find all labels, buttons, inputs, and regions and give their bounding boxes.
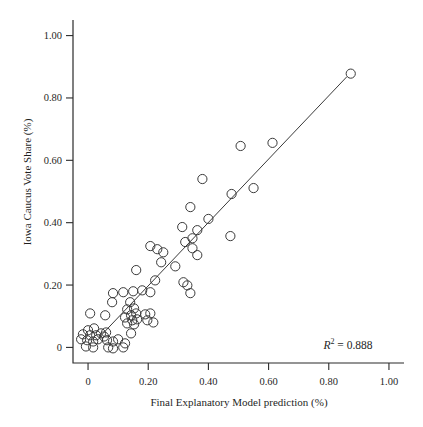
data-point: [108, 289, 117, 298]
x-tick-label: 0: [85, 376, 90, 387]
data-point: [193, 251, 202, 260]
x-axis-title: Final Explanatory Model prediction (%): [150, 396, 327, 408]
y-tick-label: 1.00: [44, 30, 62, 41]
y-tick-label: 0: [57, 342, 62, 353]
scatter-figure: 00.200.400.600.801.0000.200.400.600.801.…: [0, 0, 423, 427]
x-tick-label: 0.80: [320, 376, 338, 387]
data-point: [114, 335, 123, 344]
x-tick-label: 0.20: [139, 376, 157, 387]
data-point: [198, 174, 207, 183]
data-point: [186, 202, 195, 211]
data-point: [151, 276, 160, 285]
data-point: [149, 318, 158, 327]
data-point: [126, 329, 135, 338]
data-point: [86, 309, 95, 318]
data-point: [129, 287, 138, 296]
data-point: [101, 311, 110, 320]
y-axis-title: Iowa Caucus Vote Share (%): [21, 119, 33, 246]
regression-line: [100, 77, 347, 337]
r-squared-value: = 0.888: [334, 339, 372, 351]
r-squared-annotation: R2 = 0.888: [323, 339, 372, 351]
x-tick-label: 1.00: [380, 376, 398, 387]
data-point: [268, 138, 277, 147]
data-point: [119, 288, 128, 297]
x-tick-label: 0.40: [199, 376, 217, 387]
data-point: [171, 262, 180, 271]
y-tick-label: 0.80: [44, 92, 62, 103]
plot-canvas: 00.200.400.600.801.0000.200.400.600.801.…: [0, 0, 423, 427]
data-point: [236, 141, 245, 150]
data-point: [188, 234, 197, 243]
data-point: [178, 222, 187, 231]
data-point: [226, 231, 235, 240]
data-point: [346, 69, 355, 78]
y-tick-label: 0.60: [44, 155, 62, 166]
r-squared-variable: R: [323, 339, 330, 351]
data-point: [186, 289, 195, 298]
data-point: [132, 265, 141, 274]
data-point: [146, 288, 155, 297]
y-tick-label: 0.40: [44, 217, 62, 228]
data-point: [157, 258, 166, 267]
y-tick-label: 0.20: [44, 280, 62, 291]
data-point: [108, 298, 117, 307]
data-point: [249, 183, 258, 192]
x-tick-label: 0.60: [259, 376, 277, 387]
data-point: [188, 244, 197, 253]
